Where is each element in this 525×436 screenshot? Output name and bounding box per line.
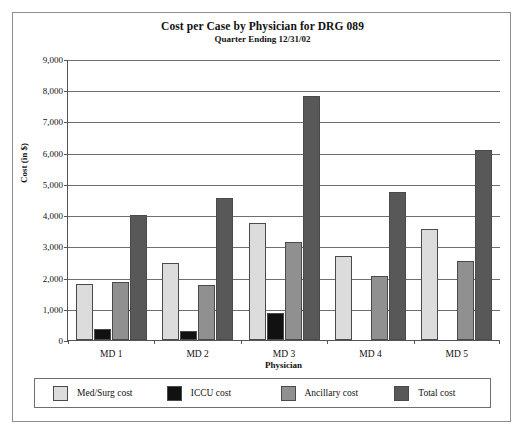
bar xyxy=(421,229,438,340)
chart-title: Cost per Case by Physician for DRG 089 xyxy=(13,19,512,33)
bar-groups: MD 1MD 2MD 3MD 4MD 5 xyxy=(68,60,500,340)
bar-group: MD 2 xyxy=(154,60,240,340)
y-axis-tick-label: 6,000 xyxy=(43,149,63,159)
x-axis-category-label: MD 5 xyxy=(414,349,500,359)
bar xyxy=(335,256,352,340)
legend-item: Ancillary cost xyxy=(263,386,377,401)
x-axis-tick-mark xyxy=(68,340,69,344)
x-axis-category-label: MD 2 xyxy=(154,349,240,359)
bar xyxy=(162,263,179,340)
legend-swatch xyxy=(281,386,296,401)
x-axis-tick-mark xyxy=(154,340,155,344)
x-axis-category-label: MD 1 xyxy=(68,349,154,359)
x-axis-title: Physician xyxy=(67,360,500,370)
bar-group: MD 5 xyxy=(414,60,500,340)
legend-swatch xyxy=(167,386,182,401)
y-axis-title: Cost (in $) xyxy=(19,143,29,183)
y-axis-tick-label: 8,000 xyxy=(43,86,63,96)
x-axis-tick-mark xyxy=(414,340,415,344)
bar xyxy=(112,282,129,340)
legend-label: Total cost xyxy=(418,388,455,398)
bar xyxy=(198,285,215,340)
y-axis-tick-label: 3,000 xyxy=(43,242,63,252)
bar xyxy=(285,242,302,340)
bar-group: MD 1 xyxy=(68,60,154,340)
legend-swatch xyxy=(394,386,409,401)
bar-group: MD 4 xyxy=(327,60,413,340)
x-axis-tick-mark xyxy=(241,340,242,344)
chart-frame: Cost per Case by Physician for DRG 089 Q… xyxy=(12,12,511,422)
chart-figure: Cost per Case by Physician for DRG 089 Q… xyxy=(0,0,525,436)
chart-legend: Med/Surg costICCU costAncillary costTota… xyxy=(34,378,491,408)
y-axis-tick-label: 5,000 xyxy=(43,180,63,190)
bar xyxy=(457,261,474,340)
y-axis-tick-label: 7,000 xyxy=(43,117,63,127)
bar xyxy=(267,313,284,340)
bar xyxy=(94,329,111,340)
bar xyxy=(303,96,320,340)
legend-label: Med/Surg cost xyxy=(77,388,133,398)
x-axis-tick-mark xyxy=(499,340,500,344)
y-axis-tick-label: 2,000 xyxy=(43,274,63,284)
y-axis-tick-label: 0 xyxy=(59,336,64,346)
bar xyxy=(389,192,406,340)
bar xyxy=(180,331,197,340)
y-axis-tick-label: 4,000 xyxy=(43,211,63,221)
bar xyxy=(249,223,266,340)
title-block: Cost per Case by Physician for DRG 089 Q… xyxy=(13,19,512,45)
bar xyxy=(216,198,233,340)
bar xyxy=(76,284,93,340)
legend-item: Total cost xyxy=(376,386,490,401)
bar xyxy=(130,215,147,340)
plot-area: 01,0002,0003,0004,0005,0006,0007,0008,00… xyxy=(67,60,500,341)
bar-group: MD 3 xyxy=(241,60,327,340)
legend-item: Med/Surg cost xyxy=(35,386,149,401)
x-axis-category-label: MD 4 xyxy=(327,349,413,359)
legend-label: Ancillary cost xyxy=(305,388,359,398)
legend-item: ICCU cost xyxy=(149,386,263,401)
chart-subtitle: Quarter Ending 12/31/02 xyxy=(13,33,512,45)
legend-label: ICCU cost xyxy=(191,388,231,398)
y-axis-tick-label: 9,000 xyxy=(43,55,63,65)
y-axis-tick-label: 1,000 xyxy=(43,305,63,315)
bar xyxy=(475,150,492,340)
x-axis-tick-mark xyxy=(327,340,328,344)
x-axis-category-label: MD 3 xyxy=(241,349,327,359)
bar xyxy=(371,276,388,340)
legend-swatch xyxy=(53,386,68,401)
